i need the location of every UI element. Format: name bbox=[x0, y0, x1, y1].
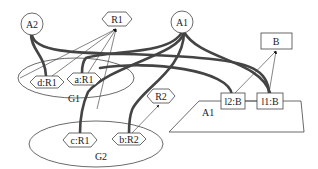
cluster-g2-label: G2 bbox=[95, 151, 107, 162]
diagram-canvas: G1 G2 A1 bbox=[0, 0, 318, 169]
node-a2[interactable]: A2 bbox=[21, 13, 43, 35]
node-r1[interactable]: R1 bbox=[102, 12, 132, 26]
node-b-r2-label: b:R2 bbox=[119, 134, 138, 145]
node-r2[interactable]: R2 bbox=[147, 89, 175, 103]
node-a-r1-label: a:R1 bbox=[75, 74, 94, 85]
node-b-label: B bbox=[273, 36, 280, 47]
cluster-g2: G2 bbox=[29, 121, 163, 167]
node-r1-label: R1 bbox=[111, 14, 123, 25]
cluster-a1-label: A1 bbox=[202, 107, 214, 118]
node-l2-b-label: l2:B bbox=[224, 96, 242, 107]
node-b[interactable]: B bbox=[261, 33, 292, 49]
node-a-r1[interactable]: a:R1 bbox=[67, 73, 101, 85]
node-l2-b[interactable]: l2:B bbox=[221, 93, 245, 109]
node-l1-b-label: l1:B bbox=[261, 96, 279, 107]
node-a1[interactable]: A1 bbox=[171, 11, 193, 33]
node-r2-label: R2 bbox=[155, 91, 167, 102]
node-l1-b[interactable]: l1:B bbox=[257, 93, 283, 109]
node-b-r2[interactable]: b:R2 bbox=[112, 133, 146, 145]
node-d-r1[interactable]: d:R1 bbox=[30, 76, 64, 88]
node-c-r1-label: c:R1 bbox=[71, 135, 90, 146]
cluster-g1-label: G1 bbox=[68, 93, 80, 104]
node-d-r1-label: d:R1 bbox=[37, 77, 56, 88]
node-a1-label: A1 bbox=[176, 17, 188, 28]
node-a2-label: A2 bbox=[26, 19, 38, 30]
node-c-r1[interactable]: c:R1 bbox=[63, 133, 97, 147]
thick-edges bbox=[31, 32, 270, 133]
